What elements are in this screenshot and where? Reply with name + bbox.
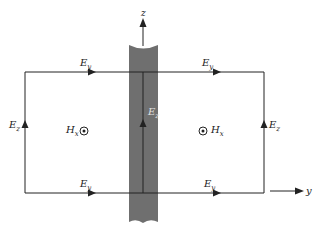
- right-side-arrowhead-icon: [261, 120, 268, 128]
- label-bottom-left: Ey: [79, 178, 92, 192]
- right-out-of-page-icon: [199, 127, 207, 135]
- left-out-of-page-icon: [80, 127, 88, 135]
- z-axis-arrowhead-icon: [140, 18, 147, 27]
- y-axis-arrowhead-icon: [295, 188, 304, 195]
- y-axis: y: [270, 185, 312, 196]
- label-right-magnetic: Hx: [210, 124, 224, 138]
- left-side-arrowhead-icon: [22, 120, 29, 128]
- label-left-magnetic: Hx: [65, 124, 79, 138]
- top-right-arrowhead-icon: [213, 69, 221, 76]
- label-right-side: Ez: [268, 119, 280, 133]
- field-loop-diagram: z y Ey Ey Ey Ey Ez Ez Ez Hx Hx: [0, 0, 318, 234]
- label-top-right: Ey: [201, 57, 214, 71]
- label-bottom-right: Ey: [203, 178, 216, 192]
- z-axis-label: z: [140, 8, 146, 18]
- label-left-side: Ez: [8, 119, 20, 133]
- z-axis: z: [140, 8, 147, 46]
- y-axis-label: y: [305, 185, 312, 196]
- label-top-left: Ey: [79, 57, 92, 71]
